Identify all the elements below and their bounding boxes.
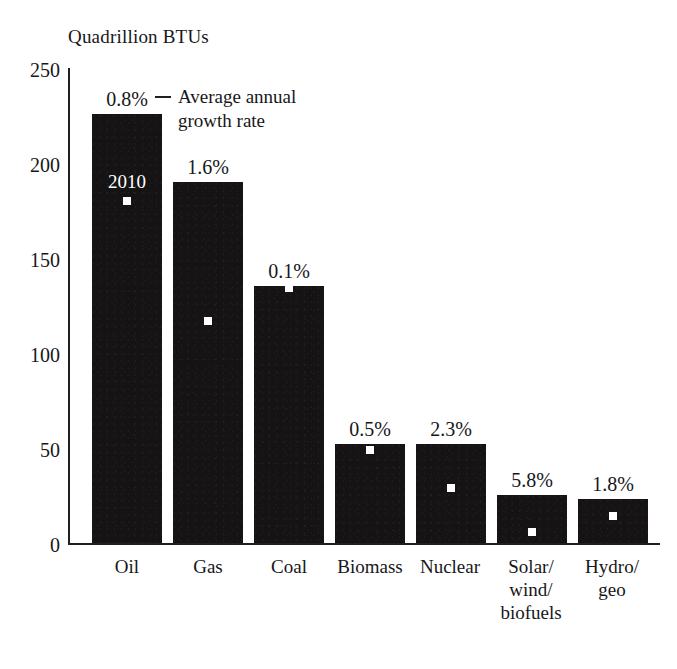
marker-2010-coal (285, 284, 293, 292)
chart-legend: Average annual growth rate (155, 85, 338, 133)
y-tick-label-250: 250 (0, 60, 60, 80)
x-tick-label-oil-line1: Oil (92, 555, 162, 578)
marker-2010-hydro-geo (609, 512, 617, 520)
growth-rate-label-gas: 1.6% (187, 157, 229, 177)
growth-rate-label-biomass: 0.5% (349, 419, 391, 439)
bar-slot-biomass: 0.5% (335, 60, 405, 543)
x-axis-line (68, 543, 660, 545)
x-tick-label-gas: Gas (173, 555, 243, 578)
y-axis-title: Quadrillion BTUs (68, 26, 209, 48)
x-tick-label-hydro-geo: Hydro/ geo (574, 555, 650, 601)
marker-2010-oil (123, 197, 131, 205)
marker-2010-nuclear (447, 484, 455, 492)
x-tick-label-solar-line1: Solar/ (491, 555, 571, 578)
marker-2010-biomass (366, 446, 374, 454)
x-tick-label-nuclear: Nuclear (409, 555, 491, 578)
growth-rate-label-hydro-geo: 1.8% (592, 474, 634, 494)
growth-rate-label-coal: 0.1% (268, 261, 310, 281)
chart-root: Quadrillion BTUs 250 200 150 100 50 0 0.… (0, 0, 677, 669)
x-tick-label-hydro-line1: Hydro/ (574, 555, 650, 578)
plot-area: 250 200 150 100 50 0 0.8% 2010 1.6% (68, 60, 668, 552)
growth-rate-label-nuclear: 2.3% (430, 419, 472, 439)
marker-2010-solar-wind-biofuels (528, 528, 536, 536)
x-tick-label-nuclear-line1: Nuclear (409, 555, 491, 578)
bar-coal[interactable] (254, 286, 324, 543)
bar-biomass[interactable] (335, 444, 405, 543)
growth-rate-label-oil: 0.8% (106, 89, 148, 109)
x-tick-label-solar-line2: wind/ (491, 578, 571, 601)
x-tick-label-biomass-line1: Biomass (327, 555, 413, 578)
bar-slot-oil: 0.8% 2010 (92, 60, 162, 543)
x-tick-label-biomass: Biomass (327, 555, 413, 578)
x-tick-label-solar-wind-biofuels: Solar/ wind/ biofuels (491, 555, 571, 624)
legend-label-line1: Average annual (178, 86, 296, 107)
y-tick-label-150: 150 (0, 250, 60, 270)
x-tick-label-oil: Oil (92, 555, 162, 578)
growth-rate-label-solar-wind-biofuels: 5.8% (511, 470, 553, 490)
y-tick-label-100: 100 (0, 345, 60, 365)
x-tick-label-solar-line3: biofuels (491, 601, 571, 624)
y-tick-label-50: 50 (0, 440, 60, 460)
bar-gas[interactable] (173, 182, 243, 543)
x-tick-label-coal: Coal (254, 555, 324, 578)
x-tick-label-hydro-line2: geo (574, 578, 650, 601)
marker-caption-2010: 2010 (108, 172, 146, 191)
bar-slot-solar-wind-biofuels: 5.8% (497, 60, 567, 543)
legend-label: Average annual growth rate (178, 85, 338, 133)
legend-dash-icon (155, 96, 171, 98)
y-tick-label-0: 0 (0, 535, 60, 555)
bar-slot-hydro-geo: 1.8% (578, 60, 648, 543)
x-tick-label-gas-line1: Gas (173, 555, 243, 578)
bar-nuclear[interactable] (416, 444, 486, 543)
legend-label-line2: growth rate (178, 110, 265, 131)
bar-solar-wind-biofuels[interactable] (497, 495, 567, 543)
y-tick-label-200: 200 (0, 155, 60, 175)
bar-oil[interactable]: 2010 (92, 114, 162, 543)
bar-hydro-geo[interactable] (578, 499, 648, 543)
x-tick-label-coal-line1: Coal (254, 555, 324, 578)
bar-slot-nuclear: 2.3% (416, 60, 486, 543)
marker-2010-gas (204, 317, 212, 325)
